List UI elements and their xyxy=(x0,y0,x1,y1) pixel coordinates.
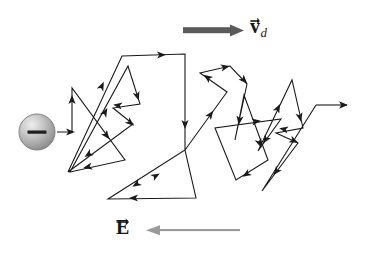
electric-field-arrow xyxy=(146,225,240,235)
vector-symbol-e: E xyxy=(116,217,129,237)
arrowhead-segment-9 xyxy=(83,149,94,160)
electron-particle xyxy=(19,114,55,150)
arrowhead-segment-14 xyxy=(129,194,138,201)
drift-velocity-label: v d xyxy=(250,16,267,39)
vector-symbol-vd: v xyxy=(250,16,260,36)
drift-velocity-arrow xyxy=(183,25,244,37)
electric-field-symbol: E xyxy=(116,216,129,238)
arrowhead-segment-16 xyxy=(205,109,216,121)
minus-charge-icon xyxy=(28,131,47,134)
drift-velocity-symbol: v xyxy=(250,15,260,37)
physics-figure-drift-velocity: v d E xyxy=(0,0,368,253)
arrowhead-segment-18 xyxy=(220,62,230,71)
electric-field-label: E xyxy=(116,217,129,237)
electron-trajectory-path xyxy=(57,54,316,199)
arrowhead-segment-6 xyxy=(133,91,143,102)
arrowhead-segment-10 xyxy=(97,80,107,91)
arrowhead-segment-15 xyxy=(150,170,161,181)
figure-canvas xyxy=(0,0,368,253)
arrowhead-segment-25 xyxy=(273,102,283,113)
drift-velocity-subscript: d xyxy=(261,25,268,40)
arrowhead-segment-28 xyxy=(289,136,300,146)
